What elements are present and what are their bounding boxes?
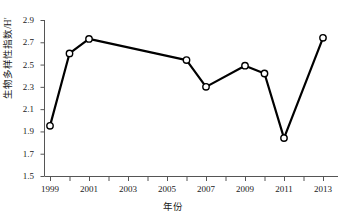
x-tick-label: 2003 [108,184,148,194]
data-point-marker [281,135,287,141]
x-axis-title: 年份 [0,201,346,213]
x-tick-label: 2005 [147,184,187,194]
data-line [50,38,323,138]
x-tick-label: 2001 [69,184,109,194]
y-tick-label: 1.9 [10,126,34,136]
data-point-marker [183,57,189,63]
x-axis-ticks [51,177,324,182]
x-tick-label: 2007 [186,184,226,194]
x-tick-label: 2011 [264,184,304,194]
data-point-marker [86,36,92,42]
data-point-marker [242,62,248,68]
y-axis-title: 生物多样性指数/H′ [2,0,14,118]
biodiversity-line-chart: 1.51.71.92.12.32.52.72.9 199920012003200… [0,0,346,222]
data-point-marker [66,50,72,56]
x-tick-label: 1999 [30,184,70,194]
data-markers [47,35,326,142]
y-tick-label: 1.7 [10,149,34,159]
data-point-marker [47,123,53,129]
y-axis-ticks [41,21,45,177]
axes [45,20,339,177]
data-point-marker [320,35,326,41]
data-point-marker [203,84,209,90]
x-tick-label: 2013 [303,184,343,194]
data-point-marker [261,70,267,76]
y-tick-label: 1.5 [10,171,34,181]
x-tick-label: 2009 [225,184,265,194]
